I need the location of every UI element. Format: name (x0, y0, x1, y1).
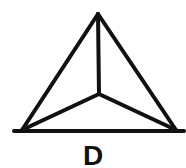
option-label: D (0, 142, 186, 168)
diagram-option-d: D (0, 0, 186, 168)
center-to-apex (98, 14, 99, 94)
